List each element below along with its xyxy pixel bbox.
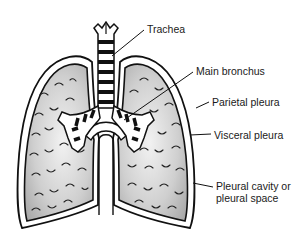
trachea (94, 22, 118, 108)
label-trachea: Trachea (147, 23, 185, 35)
label-pleural-cavity: Pleural cavity or pleural space (216, 180, 291, 204)
label-main-bronchus: Main bronchus (196, 65, 265, 77)
left-lung (17, 56, 99, 228)
label-parietal-pleura: Parietal pleura (212, 96, 280, 108)
right-lung (113, 56, 195, 228)
lung-diagram (0, 0, 304, 251)
label-visceral-pleura: Visceral pleura (214, 129, 283, 141)
